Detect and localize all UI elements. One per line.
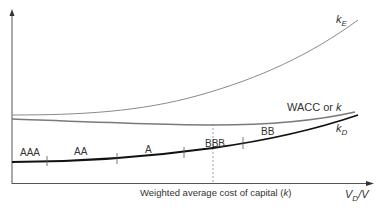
- series-kD-line: [12, 115, 358, 162]
- rating-label-aa: AA: [74, 146, 88, 157]
- rating-label-a: A: [145, 144, 152, 155]
- series-label-kD: kD: [336, 122, 348, 137]
- x-axis-arrow-icon: [366, 181, 374, 186]
- rating-label-aaa: AAA: [20, 147, 40, 158]
- chart: AAA AA A BBB BB kE WACC or k kD Weighted…: [0, 0, 378, 209]
- series-label-kE: kE: [336, 13, 348, 28]
- series-label-wacc: WACC or k: [287, 101, 342, 113]
- rating-label-bbb: BBB: [205, 138, 225, 149]
- x-axis-label: Weighted average cost of capital (k): [140, 187, 291, 198]
- rating-label-bb: BB: [261, 126, 275, 137]
- x-axis-end-label: VD/V: [345, 188, 370, 203]
- y-axis-arrow-icon: [10, 9, 15, 16]
